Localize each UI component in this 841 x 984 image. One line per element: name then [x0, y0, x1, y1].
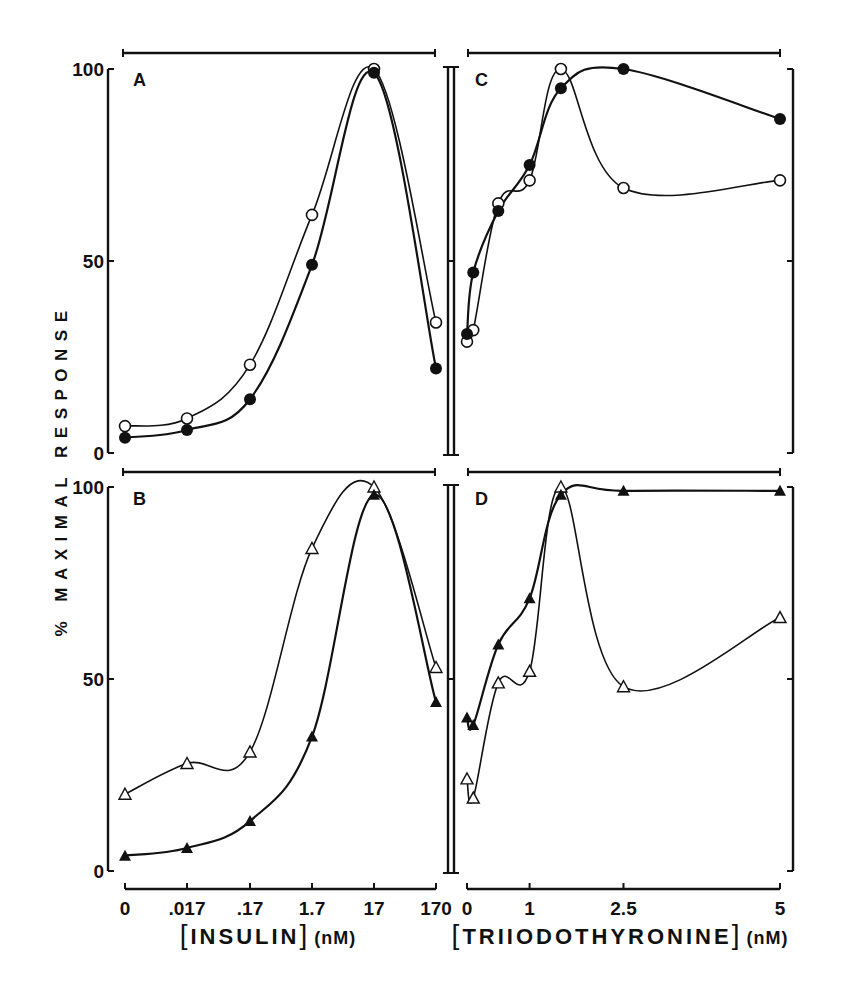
- panel-label-b: B: [133, 489, 146, 509]
- open-triangle-marker: [618, 681, 630, 692]
- filled-circle-marker: [119, 432, 131, 444]
- t3-tick-label: 1: [524, 898, 535, 919]
- panel-label-d: D: [475, 489, 488, 509]
- open-circle-marker: [524, 175, 535, 186]
- open-triangle-marker: [430, 661, 442, 672]
- t3-tick-label: 0: [462, 898, 473, 919]
- insulin-tick-label: 17: [363, 898, 384, 919]
- filled-circle-marker: [181, 424, 193, 436]
- panel-c-plot: [461, 63, 786, 347]
- open-triangle-marker: [524, 665, 536, 676]
- open-circle-marker: [120, 421, 131, 432]
- open-triangle-marker: [461, 773, 473, 784]
- filled-triangle-marker: [306, 731, 318, 742]
- open-circle-marker: [555, 64, 566, 75]
- y-tick-label: 50: [83, 251, 104, 272]
- panel-label-c: C: [475, 70, 488, 90]
- panel-b-plot: [119, 481, 442, 861]
- panel-label-a: A: [133, 70, 146, 90]
- filled-circle-marker: [524, 159, 536, 171]
- axes: [108, 49, 793, 889]
- y-tick-label: 0: [93, 861, 104, 882]
- open-triangle-marker: [244, 746, 256, 757]
- filled-triangle-marker: [492, 638, 504, 649]
- t3-axis-title: [TRIIODOTHYRONINE](nM): [452, 919, 789, 950]
- open-triangle-marker: [119, 788, 131, 799]
- insulin-tick-label: 1.7: [299, 898, 325, 919]
- panel-a-plot: [119, 64, 442, 444]
- filled-triangle-marker: [461, 711, 473, 722]
- y-axis-title: % MAXIMAL RESPONSE: [52, 303, 71, 636]
- series-line: [467, 69, 780, 345]
- figure-canvas: 0501000501000.017.171.717170012.55[INSUL…: [0, 0, 841, 984]
- series-line: [467, 67, 780, 334]
- open-circle-marker: [245, 359, 256, 370]
- t3-tick-label: 2.5: [610, 898, 637, 919]
- svg-text:[TRIIODOTHYRONINE](nM): [TRIIODOTHYRONINE](nM): [452, 919, 789, 950]
- series-line: [467, 487, 780, 803]
- panel-d-plot: [461, 481, 786, 803]
- tick-labels: 0501000501000.017.171.717170012.55: [72, 59, 785, 919]
- filled-circle-marker: [467, 267, 479, 279]
- open-triangle-marker: [774, 612, 786, 623]
- filled-circle-marker: [555, 82, 567, 94]
- t3-tick-label: 5: [775, 898, 786, 919]
- open-circle-marker: [182, 413, 193, 424]
- filled-circle-marker: [244, 393, 256, 405]
- insulin-tick-label: 170: [420, 898, 452, 919]
- insulin-tick-label: .17: [237, 898, 263, 919]
- series-line: [467, 485, 780, 729]
- svg-text:[INSULIN](nM): [INSULIN](nM): [180, 919, 357, 950]
- y-tick-label: 100: [72, 477, 104, 498]
- series-line: [125, 67, 436, 426]
- open-circle-marker: [307, 209, 318, 220]
- open-triangle-marker: [306, 542, 318, 553]
- series-line: [125, 71, 436, 437]
- filled-circle-marker: [774, 113, 786, 125]
- y-tick-label: 100: [72, 59, 104, 80]
- series-line: [125, 495, 436, 856]
- y-tick-label: 0: [93, 443, 104, 464]
- filled-circle-marker: [306, 259, 318, 271]
- open-circle-marker: [431, 317, 442, 328]
- open-circle-marker: [618, 183, 629, 194]
- filled-triangle-marker: [524, 592, 536, 603]
- filled-circle-marker: [368, 67, 380, 79]
- filled-circle-marker: [430, 363, 442, 375]
- open-triangle-marker: [492, 677, 504, 688]
- series-line: [125, 481, 436, 795]
- y-tick-label: 50: [83, 669, 104, 690]
- filled-circle-marker: [492, 205, 504, 217]
- insulin-tick-label: .017: [169, 898, 206, 919]
- filled-triangle-marker: [430, 696, 442, 707]
- insulin-tick-label: 0: [120, 898, 131, 919]
- insulin-axis-title: [INSULIN](nM): [180, 919, 357, 950]
- filled-circle-marker: [461, 328, 473, 340]
- open-circle-marker: [775, 175, 786, 186]
- filled-circle-marker: [618, 63, 630, 75]
